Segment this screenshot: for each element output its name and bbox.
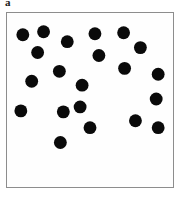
scatter-point <box>31 46 44 59</box>
scatter-point <box>134 41 147 54</box>
scatter-point <box>152 68 165 81</box>
scatter-point <box>129 114 142 127</box>
scatter-point <box>57 105 70 118</box>
scatter-point <box>14 104 27 117</box>
scatter-point <box>84 121 97 134</box>
scatter-point <box>16 28 29 41</box>
scatter-point <box>74 100 87 113</box>
scatter-point <box>118 62 131 75</box>
scatter-point <box>89 27 102 40</box>
scatter-point <box>25 75 38 88</box>
plot-area-box <box>6 12 174 188</box>
scatter-point <box>117 26 130 39</box>
scatter-plot <box>7 13 173 187</box>
scatter-point <box>53 65 66 78</box>
panel-label: a <box>5 0 11 8</box>
scatter-point <box>37 25 50 38</box>
scatter-point <box>76 79 89 92</box>
figure-panel: a <box>0 0 181 197</box>
scatter-point <box>150 93 163 106</box>
scatter-point <box>54 136 67 149</box>
scatter-point <box>92 49 105 62</box>
scatter-point <box>61 35 74 48</box>
scatter-point <box>152 121 165 134</box>
